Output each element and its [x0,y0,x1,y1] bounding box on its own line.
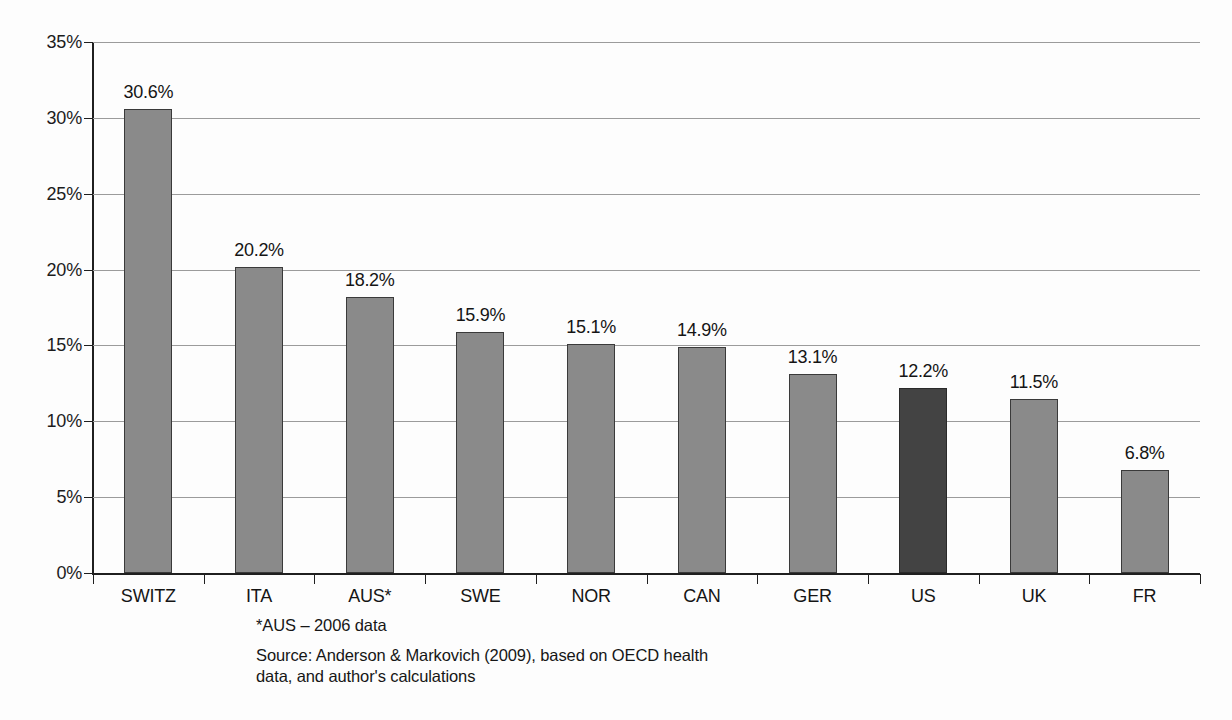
bar-value-label: 18.2% [315,271,425,289]
bar-value-label: 15.1% [536,318,646,336]
x-axis-tick-label: US [868,586,978,606]
x-axis-tick-mark [757,574,758,584]
y-axis-tick-label: 30% [12,109,82,127]
x-axis-tick-mark [1200,574,1201,584]
bar-value-label: 13.1% [758,348,868,366]
y-axis-tick-mark [84,497,93,498]
bar-value-label: 14.9% [647,321,757,339]
y-axis-tick-label: 35% [12,33,82,51]
bar-ger [789,374,837,573]
gridline [93,118,1200,119]
x-axis-tick-label: ITA [204,586,314,606]
y-axis-tick-label: 20% [12,261,82,279]
y-axis-tick-label: 10% [12,412,82,430]
y-axis-tick-mark [84,42,93,43]
y-axis-tick-mark [84,270,93,271]
x-axis-tick-mark [314,574,315,584]
x-axis-tick-mark [868,574,869,584]
bar-value-label: 12.2% [868,362,978,380]
x-axis-tick-label: NOR [536,586,646,606]
x-axis-tick-label: AUS* [315,586,425,606]
y-axis-tick-mark [84,345,93,346]
x-axis-tick-mark [93,574,94,584]
x-axis-tick-label: UK [979,586,1089,606]
source-note-line-1: Source: Anderson & Markovich (2009), bas… [256,645,876,666]
source-note-line-2: data, and author's calculations [256,666,876,687]
x-axis-tick-label: SWE [425,586,535,606]
bar-us [899,388,947,573]
bar-ita [235,267,283,573]
bar-swe [456,332,504,573]
y-axis-tick-mark [84,194,93,195]
x-axis-tick-label: FR [1090,586,1200,606]
x-axis-tick-mark [647,574,648,584]
bar-value-label: 6.8% [1090,444,1200,462]
y-axis-tick-mark [84,573,93,574]
y-axis-tick-label: 25% [12,185,82,203]
x-axis-tick-mark [425,574,426,584]
gridline [93,42,1200,43]
bar-nor [567,344,615,573]
y-axis-tick-mark [84,421,93,422]
x-axis-tick-mark [1089,574,1090,584]
bar-value-label: 11.5% [979,373,1089,391]
footnote-aus: *AUS – 2006 data [256,615,387,635]
bar-aus [346,297,394,573]
source-note: Source: Anderson & Markovich (2009), bas… [256,645,876,687]
x-axis-tick-label: SWITZ [93,586,203,606]
bar-uk [1010,399,1058,573]
x-axis-tick-label: CAN [647,586,757,606]
bar-value-label: 30.6% [93,83,203,101]
bar-value-label: 15.9% [425,306,535,324]
bar-chart-figure: 0%5%10%15%20%25%30%35% 30.6%20.2%18.2%15… [0,0,1232,720]
y-axis-tick-label: 0% [12,564,82,582]
bar-switz [124,109,172,573]
y-axis-tick-label: 5% [12,488,82,506]
x-axis-tick-mark [204,574,205,584]
bar-fr [1121,470,1169,573]
plot-area [93,42,1200,573]
y-axis-tick-label: 15% [12,336,82,354]
gridline [93,194,1200,195]
y-axis-tick-mark [84,118,93,119]
x-axis-tick-label: GER [758,586,868,606]
x-axis-tick-mark [536,574,537,584]
bar-can [678,347,726,573]
bar-value-label: 20.2% [204,241,314,259]
x-axis-tick-mark [979,574,980,584]
